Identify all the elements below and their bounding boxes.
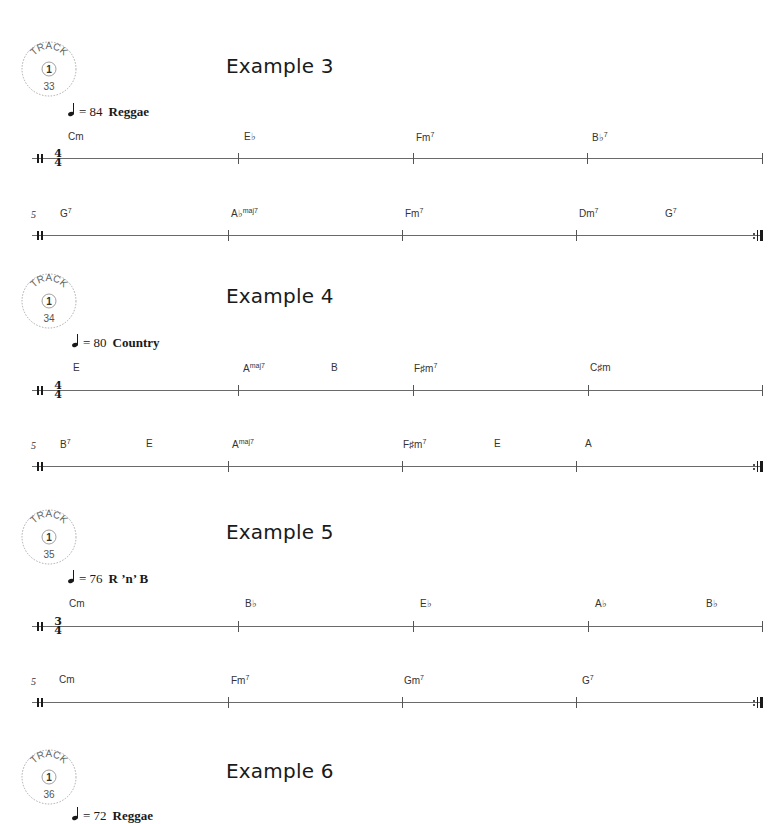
chord-system: Cm B♭ E♭ A♭ B♭ 34 <box>0 595 776 635</box>
tempo-style: R ’n’ B <box>109 571 148 586</box>
chord: Fm7 <box>416 131 434 143</box>
track-badge: TRACK 1 34 <box>20 272 78 330</box>
chord: E♭ <box>420 598 432 609</box>
time-signature: 44 <box>53 381 63 399</box>
svg-text:1: 1 <box>46 532 52 543</box>
barline <box>588 621 589 632</box>
track-badge-icon: TRACK 1 35 <box>20 508 78 566</box>
tempo-style: Reggae <box>109 104 149 119</box>
chord: G7 <box>665 207 677 219</box>
barline <box>576 461 577 472</box>
end-repeat-barline <box>753 230 763 241</box>
barline <box>762 385 763 396</box>
chord: Amaj7 <box>232 438 254 450</box>
start-repeat-barline <box>37 386 43 395</box>
barline <box>576 230 577 241</box>
barline <box>228 230 229 241</box>
chord: Cm <box>69 598 85 609</box>
example-title: Example 5 <box>226 520 334 544</box>
barline <box>402 697 403 708</box>
tempo-marking: = 80Country <box>72 335 160 351</box>
staff-line <box>32 626 762 627</box>
barline <box>238 385 239 396</box>
end-repeat-barline <box>753 461 763 472</box>
barline <box>402 461 403 472</box>
tempo-bpm: = 72 <box>83 808 107 823</box>
svg-text:33: 33 <box>43 81 55 92</box>
chord-system: E Amaj7 B F♯m7 C♯m 44 <box>0 359 776 399</box>
chord: E <box>146 438 153 449</box>
staff-line <box>32 702 762 703</box>
svg-text:TRACK: TRACK <box>28 40 70 58</box>
barline <box>413 621 414 632</box>
quarter-note-icon <box>72 808 80 820</box>
tempo-marking: = 84Reggae <box>68 104 149 120</box>
chord: E♭ <box>244 131 256 142</box>
barline <box>413 385 414 396</box>
barline <box>413 153 414 164</box>
start-repeat-barline <box>37 231 43 240</box>
barline <box>228 697 229 708</box>
start-repeat-barline <box>37 622 43 631</box>
chord: A♭maj7 <box>231 207 258 219</box>
tempo-marking: = 76R ’n’ B <box>68 571 148 587</box>
barline <box>228 461 229 472</box>
chord: B♭ <box>245 598 257 609</box>
barline <box>762 621 763 632</box>
tempo-style: Country <box>113 335 160 350</box>
svg-text:35: 35 <box>43 549 55 560</box>
time-signature: 34 <box>53 617 63 635</box>
track-badge: TRACK 1 33 <box>20 40 78 98</box>
svg-text:34: 34 <box>43 313 55 324</box>
chord: F♯m7 <box>414 362 437 374</box>
chord: C♯m <box>590 362 611 373</box>
barline <box>238 153 239 164</box>
chord: B <box>331 362 338 373</box>
tempo-marking: = 72Reggae <box>72 808 153 824</box>
chord: B♭ <box>706 598 718 609</box>
svg-text:1: 1 <box>46 772 52 783</box>
measure-number: 5 <box>31 440 36 451</box>
chord-system: 5 G7 A♭maj7 Fm7 Dm7 G7 <box>0 205 776 245</box>
staff-line <box>32 235 762 236</box>
chord: F♯m7 <box>403 438 426 450</box>
end-repeat-barline <box>753 697 763 708</box>
chord: B♭7 <box>592 131 608 143</box>
barline <box>402 230 403 241</box>
svg-text:1: 1 <box>46 296 52 307</box>
svg-text:1: 1 <box>46 64 52 75</box>
chord: Fm7 <box>231 674 249 686</box>
quarter-note-icon <box>68 104 76 116</box>
time-signature: 44 <box>53 149 63 167</box>
chord: A♭ <box>595 598 607 609</box>
barline <box>576 697 577 708</box>
example-title: Example 6 <box>226 759 334 783</box>
measure-number: 5 <box>31 676 36 687</box>
chord: G7 <box>60 207 72 219</box>
start-repeat-barline <box>37 154 43 163</box>
example-title: Example 3 <box>226 54 334 78</box>
track-badge-icon: TRACK 1 36 <box>20 748 78 806</box>
chord: G7 <box>582 674 594 686</box>
chord: A <box>585 438 592 449</box>
chord: Dm7 <box>579 207 598 219</box>
track-badge-icon: TRACK 1 33 <box>20 40 78 98</box>
svg-text:TRACK: TRACK <box>28 508 70 526</box>
track-badge: TRACK 1 36 <box>20 748 78 806</box>
barline <box>587 153 588 164</box>
chord: E <box>73 362 80 373</box>
quarter-note-icon <box>72 335 80 347</box>
measure-number: 5 <box>31 209 36 220</box>
chord-system: Cm E♭ Fm7 B♭7 44 <box>0 128 776 168</box>
chord: E <box>494 438 501 449</box>
tempo-style: Reggae <box>113 808 153 823</box>
tempo-bpm: = 84 <box>79 104 103 119</box>
svg-text:36: 36 <box>43 789 55 800</box>
barline <box>588 385 589 396</box>
chord: Cm <box>59 674 75 685</box>
chord: Amaj7 <box>243 362 265 374</box>
quarter-note-icon <box>68 571 76 583</box>
chord-system: 5 B7 E Amaj7 F♯m7 E A <box>0 436 776 476</box>
tempo-bpm: = 80 <box>83 335 107 350</box>
track-badge-icon: TRACK 1 34 <box>20 272 78 330</box>
